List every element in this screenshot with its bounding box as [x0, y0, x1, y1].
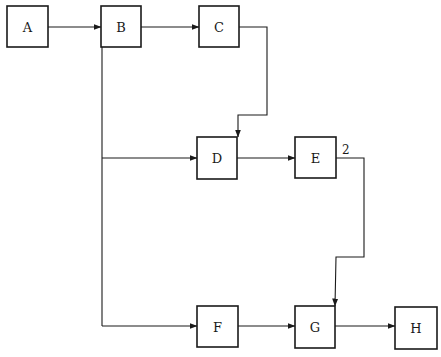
- node-a: A: [7, 6, 48, 47]
- node-f-label: F: [213, 320, 222, 335]
- edge-e-to-g: [335, 158, 364, 306]
- node-b: B: [101, 6, 141, 47]
- node-b-label: B: [116, 20, 126, 35]
- node-e: E: [295, 137, 336, 178]
- node-g: G: [295, 306, 335, 348]
- edge-c-to-d: [238, 27, 267, 137]
- node-h-label: H: [410, 321, 421, 336]
- node-h: H: [395, 307, 437, 349]
- node-e-label: E: [311, 151, 321, 166]
- node-f: F: [197, 306, 238, 347]
- node-d: D: [197, 137, 237, 179]
- node-d-label: D: [212, 151, 222, 166]
- node-c: C: [199, 6, 239, 47]
- node-g-label: G: [310, 320, 320, 335]
- flowchart-diagram: 2 A B C D E F G H: [0, 0, 441, 357]
- edge-label-e-to-g: 2: [342, 143, 350, 157]
- node-a-label: A: [22, 20, 33, 35]
- node-c-label: C: [214, 20, 224, 35]
